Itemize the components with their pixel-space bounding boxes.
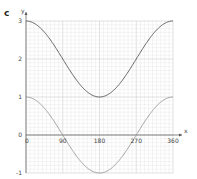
y-tick-label: -1 <box>16 169 22 176</box>
x-axis-label: x <box>184 127 188 134</box>
x-tick-label: 360 <box>167 137 179 144</box>
x-axis-arrow-icon <box>179 134 182 137</box>
y-axis-label: y <box>21 7 25 15</box>
x-tick-label: 0 <box>25 137 29 144</box>
chart: xy090180270360-10123 c <box>0 0 197 179</box>
y-tick-label: 1 <box>18 93 22 100</box>
y-tick-label: 3 <box>18 17 22 24</box>
x-tick-label: 90 <box>59 137 67 144</box>
y-axis-arrow-icon <box>25 12 28 15</box>
part-label: c <box>4 8 9 18</box>
x-tick-label: 180 <box>94 137 106 144</box>
y-tick-label: 2 <box>18 55 22 62</box>
x-tick-label: 270 <box>131 137 143 144</box>
y-tick-label: 0 <box>18 131 22 138</box>
